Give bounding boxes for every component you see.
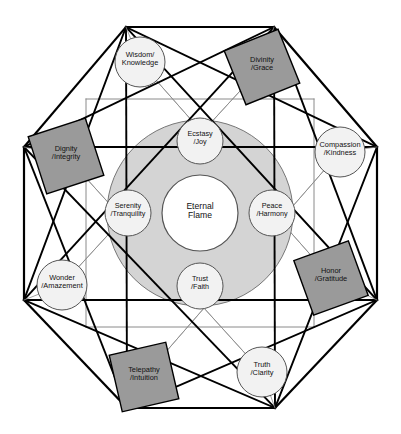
core-node-eternal-flame[interactable]	[162, 175, 238, 251]
octagon-edge	[24, 300, 127, 408]
inner-node-trust-faith[interactable]	[177, 263, 223, 309]
outer-node-honor-gratitude[interactable]	[294, 241, 368, 315]
outer-node-telepathy-intuition[interactable]	[109, 342, 179, 412]
outer-node-wisdom-knowledge[interactable]	[115, 37, 165, 87]
diagram-canvas: Wisdom/ KnowledgeDivinity /GraceCompassi…	[0, 0, 401, 434]
inner-node-peace-harmony[interactable]	[249, 190, 295, 236]
outer-node-compassion-kindness[interactable]	[315, 127, 365, 177]
octagon-edge	[275, 300, 377, 408]
inner-node-serenity-tranquility[interactable]	[105, 190, 151, 236]
outer-node-truth-clarity[interactable]	[237, 347, 287, 397]
outer-node-wonder-amazement[interactable]	[37, 260, 87, 310]
outer-node-divinity-grace[interactable]	[224, 29, 300, 105]
inner-node-ecstasy-joy[interactable]	[177, 118, 223, 164]
octagon-network-svg	[0, 0, 401, 434]
